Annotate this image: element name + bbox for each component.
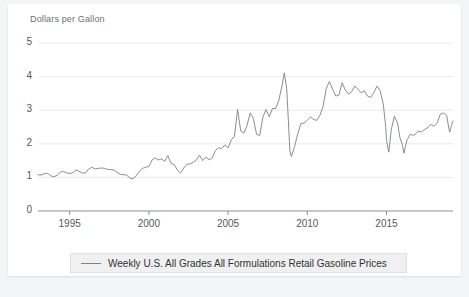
gasoline-price-line — [38, 73, 453, 179]
y-axis-tick-label: 2 — [16, 137, 32, 148]
x-axis-tick-label: 2010 — [285, 218, 329, 229]
chart-card: Dollars per Gallon 012345 19952000200520… — [8, 4, 461, 276]
y-axis-tick-label: 4 — [16, 70, 32, 81]
x-axis-tick-label: 2000 — [127, 218, 171, 229]
chart-legend: Weekly U.S. All Grades All Formulations … — [70, 253, 407, 273]
legend-series-label: Weekly U.S. All Grades All Formulations … — [108, 258, 387, 269]
x-axis-tick-label: 1995 — [48, 218, 92, 229]
y-axis-tick-label: 3 — [16, 103, 32, 114]
x-axis-ticks — [70, 211, 387, 215]
legend-line-swatch-icon — [81, 263, 101, 264]
x-axis-tick-label: 2015 — [364, 218, 408, 229]
x-axis-tick-label: 2005 — [206, 218, 250, 229]
y-axis-tick-label: 5 — [16, 36, 32, 47]
chart-screenshot: Dollars per Gallon 012345 19952000200520… — [0, 0, 469, 297]
y-axis-tick-label: 0 — [16, 204, 32, 215]
y-axis-tick-label: 1 — [16, 170, 32, 181]
gridlines — [38, 43, 453, 177]
line-chart-plot — [8, 4, 461, 276]
